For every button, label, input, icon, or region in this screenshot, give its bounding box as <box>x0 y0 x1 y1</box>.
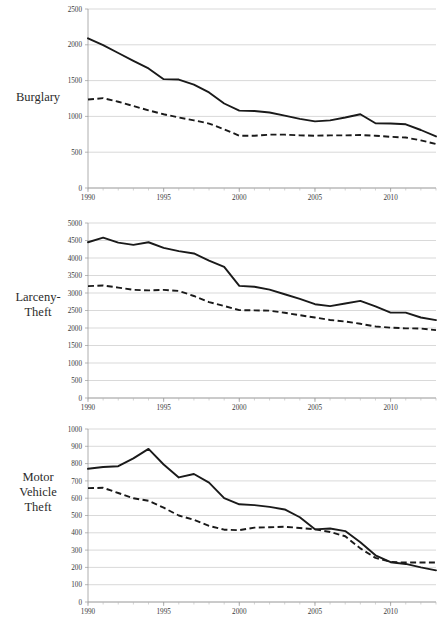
x-axis-tick-label: 2010 <box>383 608 398 616</box>
y-axis-tick-label: 500 <box>71 149 82 157</box>
panel-motor-vehicle-theft: Motor Vehicle Theft 01002003004005006007… <box>0 420 446 630</box>
series-line-solid <box>88 238 436 320</box>
x-axis-tick-label: 1995 <box>156 194 171 202</box>
x-axis-tick-label: 2000 <box>232 404 247 412</box>
series-line-dashed <box>88 488 436 563</box>
y-axis-tick-label: 4500 <box>68 237 83 245</box>
y-axis-tick-label: 4000 <box>68 255 83 263</box>
y-axis-tick-label: 0 <box>78 185 82 193</box>
plot-area-burglary: 0500100015002000250019901995200020052010 <box>0 0 446 210</box>
chart-figure: Burglary 0500100015002000250019901995200… <box>0 0 446 630</box>
y-axis-tick-label: 2000 <box>68 41 83 49</box>
panel-burglary: Burglary 0500100015002000250019901995200… <box>0 0 446 210</box>
y-axis-tick-label: 3500 <box>68 272 83 280</box>
panel-larceny-theft: Larceny- Theft 0500100015002000250030003… <box>0 210 446 420</box>
y-axis-tick-label: 600 <box>71 495 82 503</box>
y-axis-tick-label: 1000 <box>68 113 83 121</box>
y-axis-tick-label: 2500 <box>68 307 83 315</box>
plot-area-motor-vehicle-theft: 0100200300400500600700800900100019901995… <box>0 420 446 630</box>
x-axis-tick-label: 1990 <box>81 404 96 412</box>
y-axis-tick-label: 5000 <box>68 220 83 228</box>
y-axis-tick-label: 1000 <box>68 360 83 368</box>
x-axis-tick-label: 1995 <box>156 608 171 616</box>
y-axis-tick-label: 1000 <box>68 426 83 434</box>
y-axis-tick-label: 700 <box>71 478 82 486</box>
y-axis-tick-label: 300 <box>71 547 82 555</box>
y-axis-tick-label: 400 <box>71 529 82 537</box>
y-axis-tick-label: 2000 <box>68 325 83 333</box>
x-axis-tick-label: 1990 <box>81 194 96 202</box>
y-axis-tick-label: 3000 <box>68 290 83 298</box>
series-line-dashed <box>88 285 436 330</box>
plot-area-larceny-theft: 0500100015002000250030003500400045005000… <box>0 210 446 420</box>
y-axis-tick-label: 500 <box>71 377 82 385</box>
y-axis-tick-label: 0 <box>78 395 82 403</box>
x-axis-tick-label: 2010 <box>383 194 398 202</box>
x-axis-tick-label: 1990 <box>81 608 96 616</box>
x-axis-tick-label: 2000 <box>232 194 247 202</box>
y-axis-tick-label: 0 <box>78 599 82 607</box>
series-line-dashed <box>88 98 436 144</box>
series-line-solid <box>88 449 436 570</box>
y-axis-tick-label: 500 <box>71 512 82 520</box>
y-axis-tick-label: 1500 <box>68 77 83 85</box>
x-axis-tick-label: 2005 <box>308 608 323 616</box>
y-axis-tick-label: 200 <box>71 564 82 572</box>
y-axis-tick-label: 1500 <box>68 342 83 350</box>
x-axis-tick-label: 2005 <box>308 194 323 202</box>
x-axis-tick-label: 2000 <box>232 608 247 616</box>
y-axis-tick-label: 2500 <box>68 6 83 14</box>
x-axis-tick-label: 1995 <box>156 404 171 412</box>
x-axis-tick-label: 2010 <box>383 404 398 412</box>
y-axis-tick-label: 100 <box>71 581 82 589</box>
y-axis-tick-label: 800 <box>71 460 82 468</box>
x-axis-tick-label: 2005 <box>308 404 323 412</box>
series-line-solid <box>88 38 436 136</box>
y-axis-tick-label: 900 <box>71 443 82 451</box>
